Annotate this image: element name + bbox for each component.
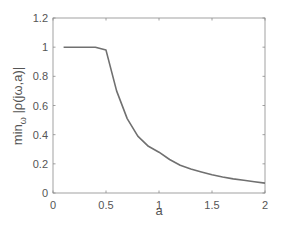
data-series xyxy=(64,47,265,183)
plot-area xyxy=(53,18,265,193)
x-tick-label: 0 xyxy=(50,199,56,211)
y-tick-label: 1 xyxy=(42,41,48,53)
y-tick-label: 0.6 xyxy=(33,100,48,112)
y-axis-label-subscript: ω xyxy=(18,117,28,124)
y-tick-label: 0 xyxy=(42,187,48,199)
y-axis-label: minω |ρ(jω,a)| xyxy=(10,67,28,145)
y-axis-label-rest: |ρ(jω,a)| xyxy=(10,67,25,117)
axis-ticks xyxy=(53,18,265,193)
x-tick-label: 2 xyxy=(262,199,268,211)
line-chart: 00.511.52 00.20.40.60.811.2 a minω |ρ(jω… xyxy=(0,0,282,238)
axes-box xyxy=(53,18,265,193)
y-tick-label: 0.8 xyxy=(33,70,48,82)
y-tick-label: 0.2 xyxy=(33,158,48,170)
y-tick-label: 1.2 xyxy=(33,12,48,24)
y-tick-labels: 00.20.40.60.811.2 xyxy=(33,12,48,199)
x-tick-label: 1.5 xyxy=(204,199,219,211)
y-axis-label-main: min xyxy=(10,124,25,145)
x-axis-label: a xyxy=(155,203,163,218)
x-tick-label: 0.5 xyxy=(98,199,113,211)
series-line xyxy=(64,47,265,183)
y-tick-label: 0.4 xyxy=(33,129,48,141)
